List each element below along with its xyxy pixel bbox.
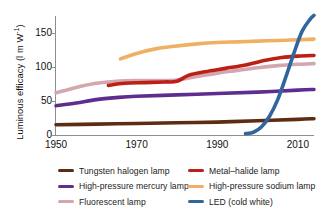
y-tickmark-50: [52, 101, 55, 102]
series-line-high-pressure-sodium-lamp: [121, 39, 315, 59]
legend-swatch-icon: [188, 200, 204, 203]
legend-column-left: Tungsten halogen lampHigh-pressure mercu…: [58, 163, 189, 210]
y-axis-tick-labels: 050100150: [14, 0, 52, 150]
legend-swatch-icon: [188, 185, 204, 188]
series-line-tungsten-halogen-lamp: [56, 119, 314, 125]
legend-item-label: Tungsten halogen lamp: [79, 166, 170, 176]
chart-figure: Luminous efficacy (l m W-1) 050100150 19…: [0, 0, 325, 211]
legend-column-right: Metal–halide lampHigh-pressure sodium la…: [188, 163, 315, 210]
legend-item[interactable]: Tungsten halogen lamp: [58, 163, 189, 179]
x-axis-spine: [55, 135, 314, 136]
legend-swatch-icon: [188, 169, 204, 172]
y-tick-50: 50: [41, 96, 52, 106]
legend-swatch-icon: [58, 169, 74, 172]
legend-item-label: High-pressure mercury lamp: [79, 181, 189, 191]
legend-item[interactable]: LED (cold white): [188, 194, 315, 210]
legend-item[interactable]: Metal–halide lamp: [188, 163, 315, 179]
x-tick-2010: 2010: [287, 139, 309, 150]
chart-legend: Tungsten halogen lampHigh-pressure mercu…: [0, 163, 325, 211]
legend-swatch-icon: [58, 200, 74, 203]
y-tickmark-0: [52, 135, 55, 136]
y-tickmark-100: [52, 67, 55, 68]
y-tickmark-150: [52, 33, 55, 34]
series-line-led-cold-white: [245, 15, 314, 133]
series-line-high-pressure-mercury-lamp: [56, 89, 314, 105]
legend-item[interactable]: Fluorescent lamp: [58, 194, 189, 210]
x-tick-1990: 1990: [206, 139, 228, 150]
x-tick-1970: 1970: [126, 139, 148, 150]
legend-swatch-icon: [58, 185, 74, 188]
legend-item-label: LED (cold white): [209, 197, 273, 207]
y-tick-150: 150: [35, 28, 52, 38]
x-tick-1950: 1950: [45, 139, 67, 150]
x-axis-tick-labels: 1950197019902010: [0, 139, 325, 153]
y-axis-spine: [55, 16, 56, 136]
legend-item[interactable]: High-pressure mercury lamp: [58, 179, 189, 195]
legend-item-label: Fluorescent lamp: [79, 197, 146, 207]
legend-item-label: High-pressure sodium lamp: [209, 181, 315, 191]
legend-item-label: Metal–halide lamp: [209, 166, 280, 176]
series-line-metal-halide-lamp: [108, 55, 314, 85]
legend-item[interactable]: High-pressure sodium lamp: [188, 179, 315, 195]
y-tick-100: 100: [35, 62, 52, 72]
series-line-fluorescent-lamp: [56, 64, 314, 93]
